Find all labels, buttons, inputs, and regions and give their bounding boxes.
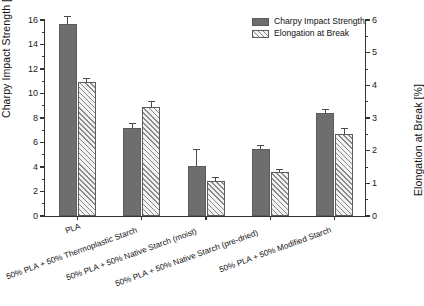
error-bar [344, 129, 345, 135]
y-axis-right-tick [365, 85, 370, 86]
error-bar-cap [212, 177, 219, 178]
y-axis-left-tick [40, 166, 45, 167]
y-axis-left-tick [42, 81, 45, 82]
error-bar [260, 146, 261, 149]
error-bar [151, 102, 152, 106]
y-axis-left-tick-label: 4 [33, 163, 38, 172]
error-bar [132, 124, 133, 128]
y-axis-right-tick [365, 183, 370, 184]
y-axis-right-tick [365, 101, 368, 102]
y-axis-left-tick [40, 93, 45, 94]
error-bar-cap [148, 101, 155, 102]
y-axis-right-tick [365, 150, 370, 151]
y-axis-right-title: Elongation at Break [%] [412, 84, 424, 196]
charpy-elongation-bar-chart: Charpy Impact Strength [kJ/m2] Elongatio… [0, 0, 424, 306]
y-axis-right-tick-label: 1 [372, 179, 377, 188]
y-axis-left-title: Charpy Impact Strength [kJ/m2] [0, 0, 12, 118]
x-axis-tick [141, 216, 142, 220]
y-axis-left-tick [40, 215, 45, 216]
y-axis-right-tick [365, 167, 368, 168]
y-axis-right-tick-label: 0 [372, 212, 377, 221]
y-axis-right-tick [365, 52, 370, 53]
y-axis-left-tick [42, 130, 45, 131]
y-axis-left-tick [40, 44, 45, 45]
bar-elongation-at-break [78, 82, 96, 216]
x-axis-tick [205, 216, 206, 220]
y-axis-right-tick [365, 69, 368, 70]
x-axis-tick [270, 216, 271, 220]
bar-elongation-at-break [335, 134, 353, 216]
y-axis-right-tick-label: 3 [372, 114, 377, 123]
error-bar [86, 79, 87, 82]
bar-elongation-at-break [142, 107, 160, 216]
y-axis-left-tick [42, 179, 45, 180]
y-axis-left-tick-label: 14 [28, 40, 38, 49]
y-axis-right-tick [365, 134, 368, 135]
x-axis-tick [77, 216, 78, 220]
y-axis-left-tick [40, 68, 45, 69]
y-axis-right-tick [365, 36, 368, 37]
y-axis-left-tick [42, 203, 45, 204]
y-axis-right-tick [365, 117, 370, 118]
bar-charpy-impact-strength [252, 149, 270, 216]
error-bar [279, 170, 280, 172]
y-axis-left-tick [40, 191, 45, 192]
y-axis-right-tick-label: 5 [372, 48, 377, 57]
y-axis-right-tick [365, 199, 368, 200]
y-axis-left-tick [42, 56, 45, 57]
x-axis-category-label-0: PLA [64, 222, 82, 236]
bar-charpy-impact-strength [316, 113, 334, 216]
y-axis-left-tick [42, 105, 45, 106]
y-axis-left-tick [42, 32, 45, 33]
y-axis-right-tick-label: 6 [372, 16, 377, 25]
y-axis-right-tick [365, 215, 370, 216]
y-axis-left-tick-label: 0 [33, 212, 38, 221]
error-bar-cap [322, 109, 329, 110]
bar-charpy-impact-strength [188, 166, 206, 216]
error-bar [196, 150, 197, 165]
error-bar-cap [83, 78, 90, 79]
error-bar [215, 178, 216, 180]
y-axis-left-tick [40, 117, 45, 118]
y-axis-left-tick-label: 10 [28, 89, 38, 98]
y-axis-right-tick-label: 4 [372, 81, 377, 90]
y-axis-left-tick [40, 19, 45, 20]
bar-elongation-at-break [271, 172, 289, 216]
error-bar-cap [257, 145, 264, 146]
y-axis-left-title-text: Charpy Impact Strength [kJ/m [0, 0, 12, 118]
y-axis-left-tick [42, 154, 45, 155]
y-axis-left-tick-label: 8 [33, 114, 38, 123]
y-axis-left-tick [40, 142, 45, 143]
x-axis-category-label-4: 50% PLA + 50% Modified Starch [218, 225, 332, 274]
y-axis-right-tick-label: 2 [372, 146, 377, 155]
y-axis-left-tick-label: 6 [33, 138, 38, 147]
bar-elongation-at-break [207, 181, 225, 216]
plot-area: 02468101214160123456 [44, 21, 366, 217]
y-axis-left-tick-label: 2 [33, 187, 38, 196]
bar-charpy-impact-strength [123, 128, 141, 216]
error-bar-cap [276, 169, 283, 170]
y-axis-left-tick-label: 12 [28, 65, 38, 74]
error-bar-cap [193, 149, 200, 150]
y-axis-left-tick-label: 16 [28, 16, 38, 25]
error-bar-cap [341, 128, 348, 129]
error-bar [67, 17, 68, 24]
x-axis-tick [334, 216, 335, 220]
y-axis-right-tick [365, 19, 370, 20]
error-bar [325, 110, 326, 113]
bar-charpy-impact-strength [59, 24, 77, 216]
error-bar-cap [129, 123, 136, 124]
error-bar-cap [64, 16, 71, 17]
